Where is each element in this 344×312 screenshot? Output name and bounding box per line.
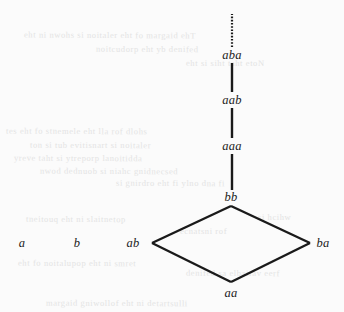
- node-label-ba: ba: [317, 236, 330, 251]
- order-diagram-figure: eht ni nwohs si noitaler eht fo margaid …: [0, 0, 344, 312]
- diagram-edges: [0, 0, 344, 312]
- node-label-aa: aa: [225, 286, 238, 301]
- edge-ab-bb: [152, 206, 231, 243]
- node-label-b: b: [74, 236, 80, 251]
- node-label-aab: aab: [222, 93, 241, 108]
- edge-aa-ba: [231, 243, 310, 282]
- node-label-aba: aba: [222, 48, 241, 63]
- edge-ab-aa: [152, 243, 231, 282]
- node-label-bb: bb: [225, 190, 238, 205]
- node-label-aaa: aaa: [222, 139, 241, 154]
- node-label-a: a: [19, 236, 25, 251]
- edge-bb-ba: [231, 206, 310, 243]
- node-label-ab: ab: [127, 236, 140, 251]
